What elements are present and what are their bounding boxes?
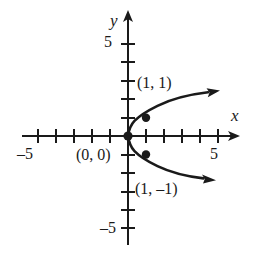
upper-point-label: (1, 1) <box>137 75 172 91</box>
x-axis-label: x <box>231 107 239 124</box>
coordinate-plane-svg <box>0 0 258 253</box>
point-origin <box>123 131 132 140</box>
graph-figure: y x 5 –5 5 –5 (0, 0) (1, 1) (1, –1) <box>0 0 258 253</box>
curve-lower-branch <box>128 136 204 178</box>
origin-point-label: (0, 0) <box>76 147 111 163</box>
x-tick-label-minus-5: –5 <box>17 146 33 162</box>
y-tick-label-minus-5: –5 <box>100 220 116 236</box>
y-axis-label: y <box>110 12 118 29</box>
curve-upper-branch <box>128 92 208 136</box>
x-tick-label-5: 5 <box>210 146 218 162</box>
y-tick-label-5: 5 <box>104 34 112 50</box>
point-1-minus-1 <box>142 150 150 158</box>
lower-point-label: (1, –1) <box>135 181 178 197</box>
point-1-1 <box>142 114 150 122</box>
